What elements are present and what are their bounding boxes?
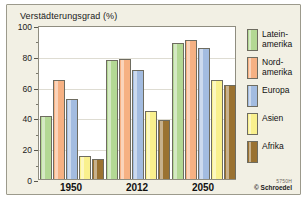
legend-item: Latein- amerika — [247, 29, 307, 52]
chart-panel: Verstädterungsgrad (%) 020406080100 1950… — [6, 4, 301, 195]
bar — [158, 120, 170, 179]
y-tick-label: 100 — [18, 22, 32, 32]
bar — [224, 85, 236, 179]
bar — [132, 70, 144, 179]
legend-swatch — [247, 113, 258, 135]
chart-legend: Latein- amerikaNord- amerikaEuropaAsienA… — [247, 29, 307, 169]
legend-label: Europa — [262, 85, 289, 96]
x-axis-label: 2012 — [126, 182, 148, 193]
bar — [145, 111, 157, 179]
bar — [106, 60, 118, 179]
y-tick-label: 60 — [23, 84, 32, 94]
plot-frame — [38, 26, 236, 180]
credit-block: 5750H © Schroedel — [254, 178, 292, 191]
bar — [79, 156, 91, 179]
bar-group — [39, 27, 105, 179]
legend-swatch — [247, 57, 258, 79]
x-axis-labels: 195020122050 — [38, 182, 236, 196]
y-tick-label: 80 — [23, 53, 32, 63]
bar-group — [105, 27, 171, 179]
bar-group — [171, 27, 237, 179]
y-tick-label: 40 — [23, 114, 32, 124]
bar — [198, 48, 210, 179]
bar — [119, 59, 131, 179]
legend-item: Nord- amerika — [247, 57, 307, 80]
x-axis-label: 2050 — [192, 182, 214, 193]
legend-label: Asien — [262, 113, 283, 124]
y-axis: 020406080100 — [7, 26, 38, 181]
chart-title: Verstädterungsgrad (%) — [20, 11, 117, 21]
y-tick-label: 20 — [23, 145, 32, 155]
legend-label: Afrika — [262, 141, 284, 152]
legend-label: Nord- amerika — [262, 57, 292, 77]
bar — [40, 116, 52, 179]
legend-item: Europa — [247, 85, 307, 108]
legend-swatch — [247, 29, 258, 51]
credit-owner: © Schroedel — [254, 184, 292, 191]
figure-container: Verstädterungsgrad (%) 020406080100 1950… — [0, 0, 307, 212]
legend-label: Latein- amerika — [262, 29, 292, 49]
bar — [172, 43, 184, 179]
plot-area — [38, 26, 236, 180]
bar — [53, 80, 65, 179]
bar — [211, 80, 223, 179]
bar — [92, 159, 104, 179]
x-axis-label: 1950 — [60, 182, 82, 193]
legend-swatch — [247, 141, 258, 163]
bar — [66, 99, 78, 179]
y-tick-label: 0 — [27, 176, 32, 186]
legend-item: Asien — [247, 113, 307, 136]
bar — [185, 40, 197, 179]
legend-item: Afrika — [247, 141, 307, 164]
legend-swatch — [247, 85, 258, 107]
